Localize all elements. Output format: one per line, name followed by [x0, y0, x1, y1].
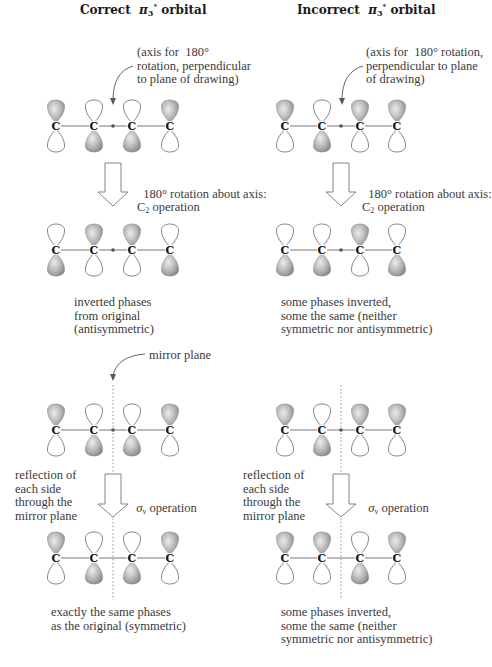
carbon-atom-label: C: [318, 424, 327, 437]
arrowhead-icon: [339, 98, 345, 105]
carbon-atom-label: C: [128, 552, 137, 565]
carbon-atom-label: C: [166, 244, 175, 257]
axis-dot: [339, 428, 343, 432]
arrowhead-icon: [110, 374, 116, 381]
carbon-atom-label: C: [356, 424, 365, 437]
carbon-atom-label: C: [393, 120, 402, 133]
c2-arrow-incorrect: [326, 163, 356, 206]
sigma-arrow-incorrect: [326, 474, 356, 517]
axis-dot: [339, 124, 343, 128]
carbon-atom-label: C: [281, 120, 290, 133]
axis-pointer-arrow-incorrect: [342, 66, 363, 100]
carbon-atom-label: C: [90, 552, 99, 565]
carbon-atom-label: C: [90, 424, 99, 437]
carbon-atom-label: C: [52, 552, 61, 565]
carbon-atom-label: C: [281, 424, 290, 437]
carbon-atom-label: C: [318, 552, 327, 565]
carbon-atom-label: C: [356, 120, 365, 133]
axis-pointer-arrow-correct: [113, 66, 133, 100]
sigma-arrow-correct: [98, 474, 128, 517]
c2-arrow-correct: [98, 163, 128, 206]
axis-dot: [111, 124, 115, 128]
carbon-atom-label: C: [128, 244, 137, 257]
carbon-atom-label: C: [281, 244, 290, 257]
arrowhead-icon: [110, 98, 116, 105]
carbon-atom-label: C: [52, 120, 61, 133]
orbital-row-after-sigma-v: CCCC: [48, 532, 179, 584]
axis-dot: [111, 428, 115, 432]
carbon-atom-label: C: [393, 244, 402, 257]
carbon-atom-label: C: [52, 244, 61, 257]
carbon-atom-label: C: [393, 424, 402, 437]
orbital-row-original: CCCC: [48, 100, 179, 152]
carbon-atom-label: C: [393, 552, 402, 565]
carbon-atom-label: C: [128, 424, 137, 437]
mirror-pointer-arrow: [113, 354, 145, 376]
orbital-row-after-c2: CCCC: [48, 224, 179, 276]
carbon-atom-label: C: [281, 552, 290, 565]
orbital-row-after-c2: CCCC: [277, 224, 406, 276]
axis-dot: [111, 248, 115, 252]
carbon-atom-label: C: [166, 424, 175, 437]
carbon-atom-label: C: [128, 120, 137, 133]
carbon-atom-label: C: [318, 120, 327, 133]
carbon-atom-label: C: [166, 120, 175, 133]
axis-dot: [339, 248, 343, 252]
carbon-atom-label: C: [90, 120, 99, 133]
orbital-row-after-sigma-v: CCCC: [277, 532, 406, 584]
carbon-atom-label: C: [356, 244, 365, 257]
carbon-atom-label: C: [166, 552, 175, 565]
carbon-atom-label: C: [52, 424, 61, 437]
carbon-atom-label: C: [356, 552, 365, 565]
orbital-row-original: CCCC: [277, 100, 406, 152]
carbon-atom-label: C: [90, 244, 99, 257]
carbon-atom-label: C: [318, 244, 327, 257]
